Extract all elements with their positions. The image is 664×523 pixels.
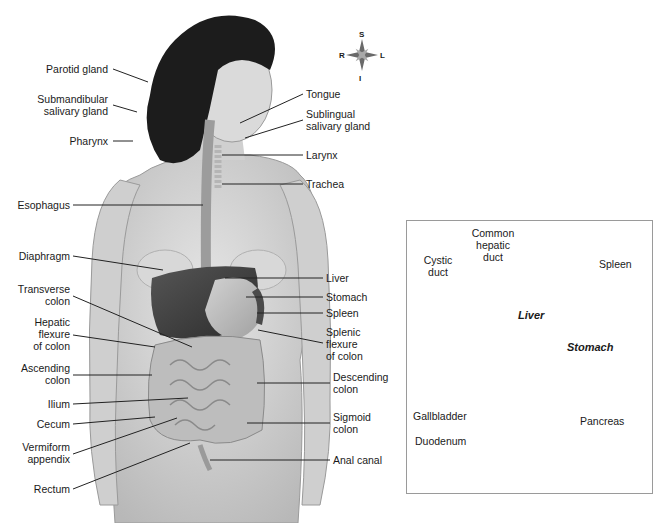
label-submandibular-salivary-gland: Submandibular salivary gland — [37, 93, 108, 117]
label-rectum: Rectum — [34, 483, 70, 495]
label-anal-canal: Anal canal — [333, 454, 382, 466]
label-ilium: Ilium — [48, 398, 70, 410]
inset-organ-label-liver: Liver — [518, 309, 544, 321]
digestive-system-figure: S I R L Parotid gland Submandibular sali… — [0, 0, 664, 523]
label-sigmoid-colon: Sigmoid colon — [333, 411, 371, 435]
inset-label-spleen: Spleen — [599, 258, 632, 270]
compass-rose-icon — [346, 39, 378, 71]
inset-organ-label-stomach: Stomach — [567, 341, 613, 353]
label-tongue: Tongue — [306, 88, 340, 100]
label-parotid-gland: Parotid gland — [46, 63, 108, 75]
label-liver: Liver — [326, 272, 349, 284]
label-spleen: Spleen — [326, 307, 359, 319]
compass-inferior-label: I — [359, 74, 361, 83]
label-ascending-colon: Ascending colon — [21, 362, 70, 386]
inset-label-duodenum: Duodenum — [415, 435, 466, 447]
label-pharynx: Pharynx — [69, 135, 108, 147]
compass-superior-label: S — [359, 30, 364, 39]
inset-label-pancreas: Pancreas — [580, 415, 624, 427]
inset-label-common-hepatic-duct: Common hepatic duct — [470, 227, 516, 263]
label-esophagus: Esophagus — [17, 199, 70, 211]
label-cecum: Cecum — [37, 418, 70, 430]
label-splenic-flexure-of-colon: Splenic flexure of colon — [326, 326, 363, 362]
esophagus — [206, 120, 210, 275]
label-trachea: Trachea — [306, 178, 344, 190]
label-larynx: Larynx — [306, 149, 338, 161]
intestines — [148, 336, 264, 443]
compass-right-label: R — [339, 51, 345, 60]
label-vermiform-appendix: Vermiform appendix — [22, 441, 70, 465]
compass-left-label: L — [380, 51, 385, 60]
label-transverse-colon: Transverse colon — [18, 283, 70, 307]
inset-label-gallbladder: Gallbladder — [413, 410, 467, 422]
label-descending-colon: Descending colon — [333, 371, 388, 395]
label-sublingual-salivary-gland: Sublingual salivary gland — [306, 108, 370, 132]
label-diaphragm: Diaphragm — [19, 250, 70, 262]
label-hepatic-flexure-of-colon: Hepatic flexure of colon — [33, 316, 70, 352]
inset-label-cystic-duct: Cystic duct — [420, 254, 456, 278]
label-stomach: Stomach — [326, 291, 367, 303]
